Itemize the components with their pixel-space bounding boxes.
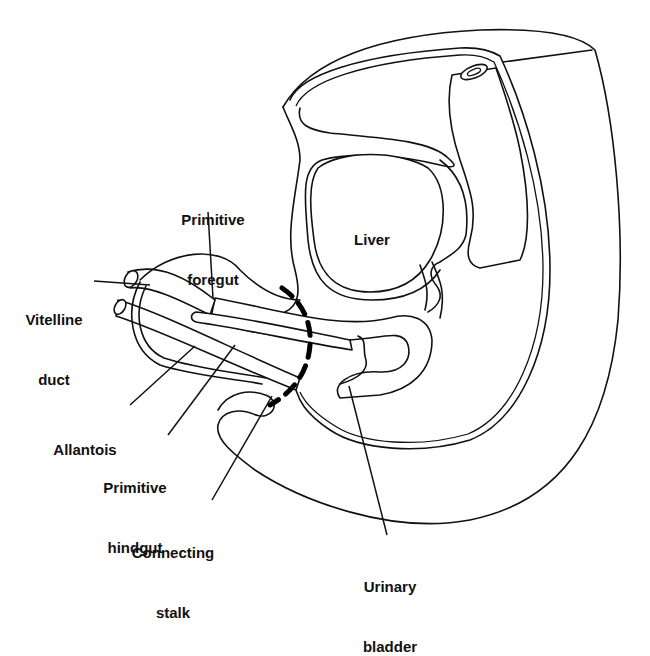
leader-primitive-hindgut [168,345,235,435]
label-line: Urinary [350,577,430,597]
upper-tube [449,68,527,268]
label-line: Liver [342,230,402,250]
label-line: bladder [350,637,430,656]
label-line: Primitive [85,478,185,498]
outer-body-wall [218,30,621,524]
foregut-upper-wall [283,107,300,312]
label-primitive-foregut: Primitive foregut [163,170,263,330]
dashed-boundary [270,288,310,405]
label-urinary-bladder: Urinary bladder [350,537,430,656]
label-line: Connecting [118,543,228,563]
label-connecting-stalk: Connecting stalk [118,503,228,656]
label-liver: Liver [342,190,402,290]
label-line: stalk [118,603,228,623]
label-line: Primitive [163,210,263,230]
label-line: foregut [163,270,263,290]
label-line: Vitelline [14,310,94,330]
leader-allantois [130,346,195,405]
outer-shell-top-edge [503,50,592,62]
label-line: duct [14,370,94,390]
